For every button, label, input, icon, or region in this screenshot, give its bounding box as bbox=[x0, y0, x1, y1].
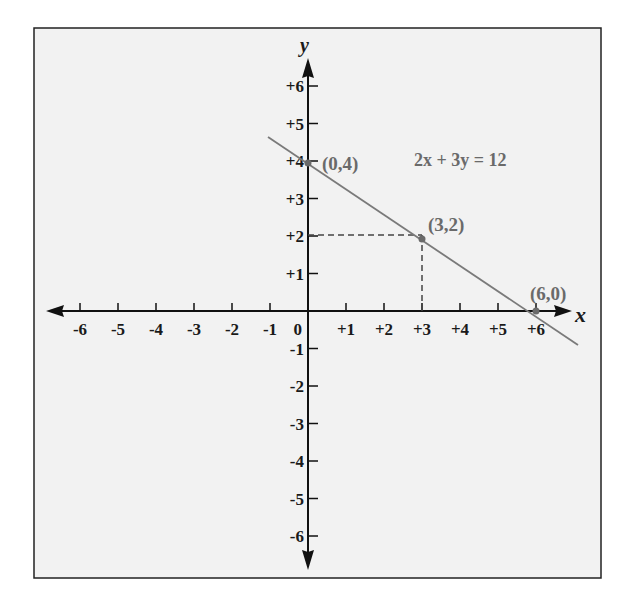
y-tick-label: -5 bbox=[290, 490, 304, 509]
graph-figure: y x -6-5-4-3-2-10+1+2+3+4+5+6 +6+5+4+3+2… bbox=[0, 0, 621, 605]
x-tick-label: -1 bbox=[263, 320, 277, 339]
y-tick-label: -1 bbox=[290, 340, 304, 359]
x-tick-label: +3 bbox=[413, 320, 431, 339]
x-tick-label: -6 bbox=[73, 320, 87, 339]
x-tick-label: +5 bbox=[489, 320, 507, 339]
x-tick-label: -5 bbox=[111, 320, 125, 339]
y-tick-label: +3 bbox=[286, 190, 304, 209]
x-tick-label: +1 bbox=[337, 320, 355, 339]
point-label-0-4: (0,4) bbox=[322, 153, 358, 175]
point-label-3-2: (3,2) bbox=[428, 214, 464, 236]
x-tick-label: -3 bbox=[187, 320, 201, 339]
point-label-6-0: (6,0) bbox=[530, 283, 566, 305]
x-tick-label: +2 bbox=[375, 320, 393, 339]
y-tick-label: -3 bbox=[290, 415, 304, 434]
y-tick-label: -4 bbox=[290, 452, 305, 471]
x-tick-label: +4 bbox=[451, 320, 470, 339]
y-tick-label: +2 bbox=[286, 227, 304, 246]
y-tick-label: +6 bbox=[286, 77, 304, 96]
y-tick-label: +1 bbox=[286, 265, 304, 284]
y-tick-label: +5 bbox=[286, 115, 304, 134]
x-tick-label: +6 bbox=[527, 320, 545, 339]
y-tick-label: -2 bbox=[290, 377, 304, 396]
x-axis-label: x bbox=[574, 302, 586, 327]
y-tick-label: -6 bbox=[290, 527, 304, 546]
equation-label: 2x + 3y = 12 bbox=[414, 150, 507, 170]
y-axis-label: y bbox=[298, 34, 309, 57]
x-tick-label: 0 bbox=[294, 320, 303, 339]
point-6-0 bbox=[533, 308, 540, 315]
x-tick-label: -2 bbox=[225, 320, 239, 339]
x-tick-label: -4 bbox=[149, 320, 164, 339]
point-0-4 bbox=[305, 160, 312, 167]
point-3-2 bbox=[419, 236, 426, 243]
